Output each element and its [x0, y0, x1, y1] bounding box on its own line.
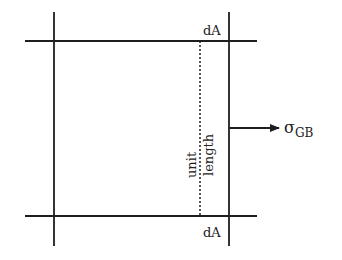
unit-label: unit [184, 151, 199, 178]
grain-boundary-diagram: dA dA unit length σGB [0, 0, 342, 260]
diagram-svg: dA dA unit length σGB [0, 0, 342, 260]
length-label: length [201, 133, 216, 176]
bottom-area-label: dA [203, 225, 221, 240]
top-area-label: dA [203, 23, 221, 38]
stress-subscript: GB [295, 126, 314, 140]
stress-label: σGB [284, 118, 314, 140]
stress-symbol: σ [284, 118, 295, 137]
